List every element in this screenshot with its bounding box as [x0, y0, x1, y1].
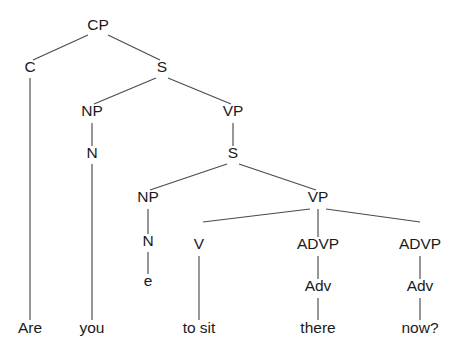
tree-node-advp1: ADVP	[297, 235, 339, 252]
tree-node-np2: NP	[137, 188, 159, 205]
tree-terminal-t_there: there	[300, 319, 335, 336]
syntax-tree-diagram: CPCSNPVPNSNPVPNVADVPADVPeAdvAdv Areyouto…	[0, 0, 466, 357]
tree-terminal-t_tosit: to sit	[183, 319, 216, 336]
tree-node-vp1: VP	[223, 102, 244, 119]
tree-node-advp2: ADVP	[399, 235, 441, 252]
tree-node-c: C	[24, 58, 35, 75]
tree-terminal-t_now: now?	[401, 319, 438, 336]
tree-node-adv2: Adv	[407, 277, 434, 294]
tree-node-vp2: VP	[308, 188, 329, 205]
tree-node-adv1: Adv	[305, 277, 332, 294]
tree-node-s1: S	[157, 58, 167, 75]
tree-node-np1: NP	[81, 102, 103, 119]
diagram-background	[0, 0, 466, 357]
tree-terminal-t_are: Are	[18, 319, 42, 336]
tree-node-n1: N	[86, 144, 97, 161]
tree-node-s2: S	[228, 144, 238, 161]
tree-node-cp: CP	[87, 16, 109, 33]
tree-node-n2: N	[142, 232, 153, 249]
tree-node-empty: e	[144, 272, 153, 289]
tree-terminal-t_you: you	[80, 319, 105, 336]
tree-node-v: V	[194, 235, 205, 252]
